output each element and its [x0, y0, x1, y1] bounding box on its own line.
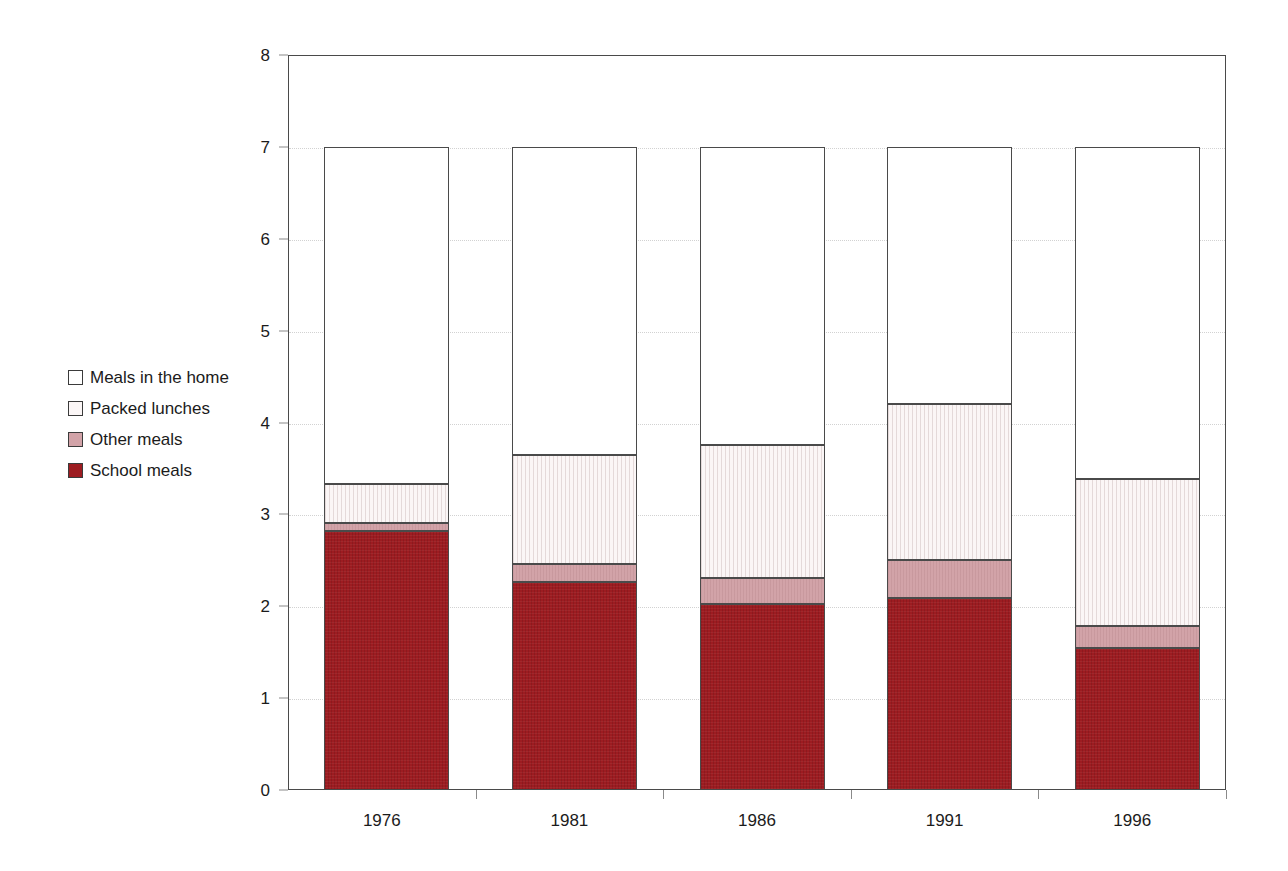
y-tick-mark-2 [279, 606, 288, 607]
bar-segment-meals-in-the-home-1991[interactable] [887, 147, 1012, 404]
x-tick-mark-1 [476, 790, 477, 799]
stacked-bar-chart-figure: Meals in the home Packed lunches Other m… [0, 0, 1288, 871]
bar-segment-meals-in-the-home-1986[interactable] [700, 147, 825, 446]
bar-segment-school-meals-1986[interactable] [700, 604, 825, 790]
y-tick-label-6: 6 [261, 230, 279, 247]
bar-segment-school-meals-1996[interactable] [1075, 648, 1200, 790]
bar-1986[interactable] [700, 147, 825, 790]
bar-segment-other-meals-1986[interactable] [700, 578, 825, 605]
y-tick-mark-5 [279, 330, 288, 331]
y-tick-label-4: 4 [261, 414, 279, 431]
y-tick-mark-8 [279, 55, 288, 56]
y-tick-mark-1 [279, 698, 288, 699]
bar-segment-meals-in-the-home-1976[interactable] [324, 147, 449, 484]
x-tick-mark-3 [851, 790, 852, 799]
y-tick-label-5: 5 [261, 322, 279, 339]
y-tick-7: 7 [261, 138, 288, 155]
x-tick-label-1991: 1991 [926, 812, 964, 829]
y-tick-label-1: 1 [261, 690, 279, 707]
bar-segment-school-meals-1991[interactable] [887, 598, 1012, 790]
bar-1996[interactable] [1075, 147, 1200, 790]
y-tick-label-0: 0 [261, 782, 279, 799]
bar-segment-school-meals-1981[interactable] [512, 582, 637, 790]
bar-segment-other-meals-1981[interactable] [512, 564, 637, 582]
y-tick-6: 6 [261, 230, 288, 247]
y-tick-label-8: 8 [261, 47, 279, 64]
x-tick-label-1976: 1976 [363, 812, 401, 829]
bar-1976[interactable] [324, 147, 449, 790]
bar-segment-packed-lunches-1986[interactable] [700, 445, 825, 577]
bar-1991[interactable] [887, 147, 1012, 790]
bar-segment-school-meals-1976[interactable] [324, 531, 449, 790]
x-tick-mark-4 [1038, 790, 1039, 799]
y-tick-mark-3 [279, 514, 288, 515]
y-tick-label-3: 3 [261, 506, 279, 523]
bar-segment-other-meals-1991[interactable] [887, 560, 1012, 598]
bar-segment-other-meals-1996[interactable] [1075, 626, 1200, 648]
x-tick-label-1986: 1986 [738, 812, 776, 829]
y-tick-2: 2 [261, 598, 288, 615]
x-tick-label-1996: 1996 [1113, 812, 1151, 829]
y-tick-5: 5 [261, 322, 288, 339]
bar-segment-other-meals-1976[interactable] [324, 523, 449, 531]
y-tick-mark-6 [279, 238, 288, 239]
bar-group [288, 55, 1226, 790]
y-tick-label-2: 2 [261, 598, 279, 615]
bar-segment-meals-in-the-home-1996[interactable] [1075, 147, 1200, 479]
y-tick-3: 3 [261, 506, 288, 523]
y-tick-label-7: 7 [261, 138, 279, 155]
x-axis: 19761981198619911996 [288, 790, 1226, 860]
bar-segment-packed-lunches-1981[interactable] [512, 455, 637, 564]
bar-segment-meals-in-the-home-1981[interactable] [512, 147, 637, 455]
y-axis: 8 7 6 5 4 3 2 1 0 [0, 55, 288, 790]
bar-1981[interactable] [512, 147, 637, 790]
y-tick-0: 0 [261, 782, 288, 799]
bar-segment-packed-lunches-1996[interactable] [1075, 479, 1200, 626]
y-tick-mark-7 [279, 146, 288, 147]
y-tick-4: 4 [261, 414, 288, 431]
y-tick-1: 1 [261, 690, 288, 707]
y-tick-mark-4 [279, 422, 288, 423]
y-tick-8: 8 [261, 47, 288, 64]
x-tick-label-1981: 1981 [550, 812, 588, 829]
bar-segment-packed-lunches-1976[interactable] [324, 484, 449, 523]
bar-segment-packed-lunches-1991[interactable] [887, 404, 1012, 560]
y-tick-mark-0 [279, 790, 288, 791]
x-tick-mark-2 [663, 790, 664, 799]
x-tick-mark-5 [1226, 790, 1227, 799]
